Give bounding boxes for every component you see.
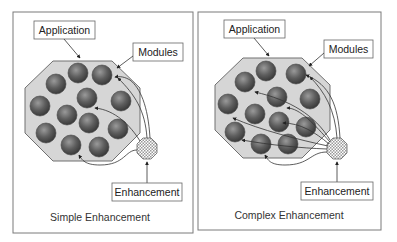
module [235,72,255,92]
module [89,137,109,157]
module [225,122,245,142]
panel-caption: Simple Enhancement [50,211,150,223]
application-label-text: Application [39,24,91,36]
module [77,88,97,108]
module [61,135,81,155]
modules-label: Modules [133,43,183,61]
module [57,105,77,125]
enhancement-label: Enhancement [112,183,182,201]
module [111,91,131,111]
module [269,112,289,132]
panel-complex-enhancement: Application Modules Enhancement Complex … [198,12,381,230]
panel-caption: Complex Enhancement [234,209,343,221]
enhancement-node [137,138,157,159]
module [256,61,276,81]
application-label: Application [224,20,285,38]
enhancement-node [327,138,347,159]
module [218,94,238,114]
module [245,104,265,124]
module [286,64,306,84]
diagram-canvas: Application Modules Enhancement Simple E… [0,0,397,242]
modules-label-text: Modules [138,46,178,58]
modules-label: Modules [324,40,373,58]
module [68,63,88,83]
module [92,65,112,85]
module [30,96,50,116]
panel-simple-enhancement: Application Modules Enhancement Simple E… [13,12,193,233]
module [79,113,99,133]
module [46,74,66,94]
module [300,89,320,109]
module [278,134,298,154]
enhancement-label-text: Enhancement [115,186,180,198]
application-label-text: Application [229,23,281,35]
enhancement-label: Enhancement [301,182,373,200]
module [36,123,56,143]
modules-label-text: Modules [329,43,369,55]
application-label: Application [34,21,95,39]
module [267,87,287,107]
enhancement-label-text: Enhancement [305,185,370,197]
